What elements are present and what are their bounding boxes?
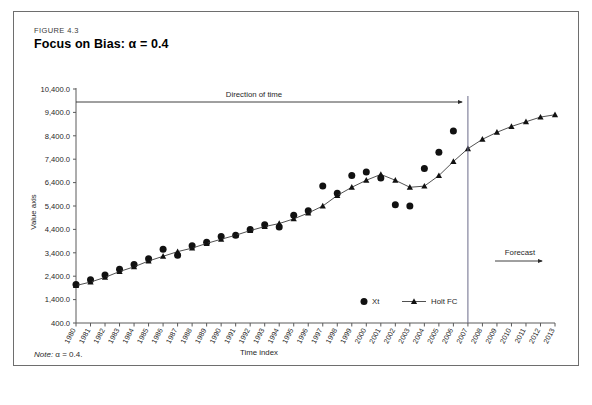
direction-of-time-label: Direction of time [226,90,282,99]
x-tick-label: 1982 [91,327,106,345]
data-point-xt [435,149,442,156]
data-point-holt-fc [378,171,384,177]
data-point-holt-fc [494,129,500,135]
x-tick-label: 1998 [324,327,339,345]
y-tick-label: 1,400.0 [45,295,70,304]
x-tick-label: 2013 [541,327,556,345]
legend-marker-xt [361,298,368,305]
y-axis-title: Value axis [29,194,38,229]
x-tick-label: 1991 [222,327,237,345]
chart-annotations: Direction of timeForecast [76,90,542,323]
data-point-xt [450,128,457,135]
x-tick-label: 1980 [62,327,77,345]
chart-plot-area: 400.01,400.02,400.03,400.04,400.05,400.0… [14,12,580,367]
y-tick-label: 6,400.0 [45,178,70,187]
x-tick-label: 1992 [236,327,251,345]
figure-card: FIGURE 4.3 Focus on Bias: α = 0.4 Note: … [13,11,579,366]
x-tick-label: 2009 [483,327,498,345]
data-point-holt-fc [392,177,398,183]
legend-label-xt: Xt [372,297,380,306]
y-tick-label: 8,400.0 [45,132,70,141]
x-tick-label: 1995 [280,327,295,345]
x-tick-label: 1983 [106,327,121,345]
data-point-xt [160,246,167,253]
chart-legend: XtHolt FC [361,297,458,306]
x-tick-label: 2012 [527,327,542,345]
x-tick-label: 2004 [411,327,426,345]
data-point-xt [421,165,428,172]
x-tick-label: 2001 [367,327,382,345]
x-tick-label: 2003 [396,327,411,345]
x-tick-label: 1984 [120,327,135,345]
data-point-xt [319,183,326,190]
x-tick-label: 1981 [77,327,92,345]
data-point-holt-fc [349,184,355,190]
data-point-holt-fc [479,136,485,142]
y-tick-label: 4,400.0 [45,225,70,234]
x-tick-label: 2006 [440,327,455,345]
y-tick-label: 10,400.0 [40,85,70,94]
data-point-xt [406,203,413,210]
x-tick-label: 1986 [149,327,164,345]
data-point-xt [348,172,355,179]
y-tick-label: 400.0 [51,319,70,328]
x-tick-label: 1997 [309,327,324,345]
x-axis-title: Time index [240,348,278,357]
y-tick-label: 7,400.0 [45,155,70,164]
data-point-holt-fc [421,183,427,189]
x-tick-label: 1990 [207,327,222,345]
forecast-label: Forecast [505,248,536,257]
chart-svg: 400.01,400.02,400.03,400.04,400.05,400.0… [14,12,580,367]
data-point-holt-fc [363,177,369,183]
x-tick-label: 2002 [382,327,397,345]
x-tick-label: 2010 [498,327,513,345]
x-tick-label: 2008 [469,327,484,345]
data-point-holt-fc [320,203,326,209]
legend-label-holt-fc: Holt FC [431,297,458,306]
chart-series [73,112,559,289]
x-axis: 1980198119821983198419851986198719881989… [62,323,556,345]
y-tick-label: 5,400.0 [45,202,70,211]
y-tick-label: 3,400.0 [45,249,70,258]
x-tick-label: 2011 [513,327,528,345]
data-point-holt-fc [552,112,558,118]
y-tick-label: 2,400.0 [45,272,70,281]
x-tick-label: 1993 [251,327,266,345]
x-tick-label: 1989 [193,327,208,345]
x-tick-label: 1996 [295,327,310,345]
x-tick-label: 2007 [454,327,469,345]
x-tick-label: 1987 [164,327,179,345]
x-tick-label: 1994 [266,327,281,345]
x-tick-label: 1985 [135,327,150,345]
x-tick-label: 1999 [338,327,353,345]
y-tick-label: 9,400.0 [45,108,70,117]
x-tick-label: 2000 [353,327,368,345]
x-tick-label: 2005 [425,327,440,345]
data-point-xt [392,201,399,208]
x-tick-label: 1988 [178,327,193,345]
data-point-xt [363,169,370,176]
y-axis: 400.01,400.02,400.03,400.04,400.05,400.0… [40,85,76,328]
